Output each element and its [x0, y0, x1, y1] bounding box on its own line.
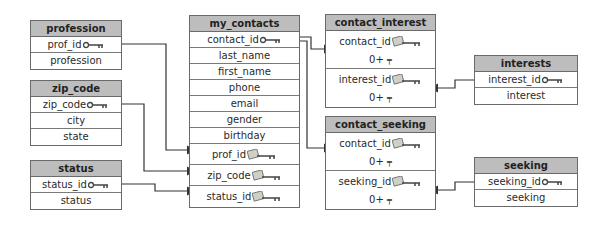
- table-title: contact_seeking: [326, 117, 435, 133]
- key-icon: [88, 181, 110, 189]
- table-title: seeking: [475, 158, 577, 174]
- table-contact-seeking[interactable]: contact_seeking contact_id 0+ ╤ seeking_…: [325, 116, 436, 210]
- field-interest[interactable]: interest: [475, 88, 577, 104]
- field-email[interactable]: email: [190, 96, 299, 112]
- field-label: seeking_id: [488, 176, 541, 187]
- field-prof-id[interactable]: prof_id: [31, 37, 121, 53]
- field-label: contact_id: [339, 138, 391, 149]
- field-label: prof_id: [47, 39, 81, 50]
- table-interests[interactable]: interests interest_id interest: [474, 55, 578, 105]
- table-title: status: [31, 161, 121, 177]
- field-profession[interactable]: profession: [31, 53, 121, 69]
- field-interest-id[interactable]: interest_id: [475, 72, 577, 88]
- field-label: prof_id: [212, 149, 246, 160]
- field-status-id[interactable]: status_id: [31, 177, 121, 193]
- field-city[interactable]: city: [31, 113, 121, 129]
- field-seeking[interactable]: seeking: [475, 190, 577, 206]
- cardinality-zero-plus: 0+ ╤: [326, 155, 435, 170]
- field-last-name[interactable]: last_name: [190, 48, 299, 64]
- field-status-id-fk[interactable]: status_id: [190, 186, 299, 207]
- field-interest-id[interactable]: interest_id 0+ ╤: [326, 69, 435, 107]
- field-label: status_id: [42, 179, 87, 190]
- cardinality-zero-plus: 0+ ╤: [326, 91, 435, 106]
- field-zip-code-fk[interactable]: zip_code: [190, 165, 299, 186]
- field-seeking-id[interactable]: seeking_id 0+ ╤: [326, 171, 435, 209]
- table-zip-code[interactable]: zip_code zip_code city state: [30, 80, 122, 146]
- field-status[interactable]: status: [31, 193, 121, 209]
- table-seeking[interactable]: seeking seeking_id seeking: [474, 157, 578, 207]
- foreign-key-icon: [392, 74, 422, 86]
- foreign-key-icon: [252, 191, 282, 203]
- key-icon: [260, 36, 282, 44]
- field-state[interactable]: state: [31, 129, 121, 145]
- foreign-key-icon: [392, 138, 422, 150]
- table-my-contacts[interactable]: my_contacts contact_id last_name first_n…: [189, 15, 300, 208]
- foreign-key-icon: [252, 170, 282, 182]
- field-label: contact_id: [339, 36, 391, 47]
- field-label: status_id: [207, 191, 252, 202]
- key-icon: ╤: [387, 94, 392, 103]
- field-gender[interactable]: gender: [190, 112, 299, 128]
- foreign-key-icon: [247, 149, 277, 161]
- key-icon: [87, 101, 109, 109]
- field-seeking-id[interactable]: seeking_id: [475, 174, 577, 190]
- field-phone[interactable]: phone: [190, 80, 299, 96]
- field-contact-id[interactable]: contact_id 0+ ╤: [326, 31, 435, 69]
- table-title: zip_code: [31, 81, 121, 97]
- table-title: my_contacts: [190, 16, 299, 32]
- field-label: contact_id: [207, 34, 259, 45]
- table-profession[interactable]: profession prof_id profession: [30, 20, 122, 70]
- table-title: contact_interest: [326, 15, 435, 31]
- table-title: interests: [475, 56, 577, 72]
- field-label: zip_code: [43, 99, 87, 110]
- field-label: zip_code: [207, 170, 251, 181]
- key-icon: [83, 41, 105, 49]
- field-zip-code[interactable]: zip_code: [31, 97, 121, 113]
- key-icon: ╤: [387, 158, 392, 167]
- field-contact-id[interactable]: contact_id: [190, 32, 299, 48]
- key-icon: ╤: [387, 56, 392, 65]
- field-first-name[interactable]: first_name: [190, 64, 299, 80]
- table-status[interactable]: status status_id status: [30, 160, 122, 210]
- cardinality-zero-plus: 0+ ╤: [326, 193, 435, 208]
- cardinality-zero-plus: 0+ ╤: [326, 53, 435, 68]
- foreign-key-icon: [392, 176, 422, 188]
- foreign-key-icon: [392, 36, 422, 48]
- field-label: interest_id: [339, 74, 392, 85]
- field-birthday[interactable]: birthday: [190, 128, 299, 144]
- key-icon: ╤: [387, 196, 392, 205]
- field-label: seeking_id: [339, 176, 392, 187]
- field-contact-id[interactable]: contact_id 0+ ╤: [326, 133, 435, 171]
- table-contact-interest[interactable]: contact_interest contact_id 0+ ╤ interes…: [325, 14, 436, 108]
- table-title: profession: [31, 21, 121, 37]
- key-icon: [542, 76, 564, 84]
- field-label: interest_id: [488, 74, 541, 85]
- key-icon: [542, 178, 564, 186]
- field-prof-id-fk[interactable]: prof_id: [190, 144, 299, 165]
